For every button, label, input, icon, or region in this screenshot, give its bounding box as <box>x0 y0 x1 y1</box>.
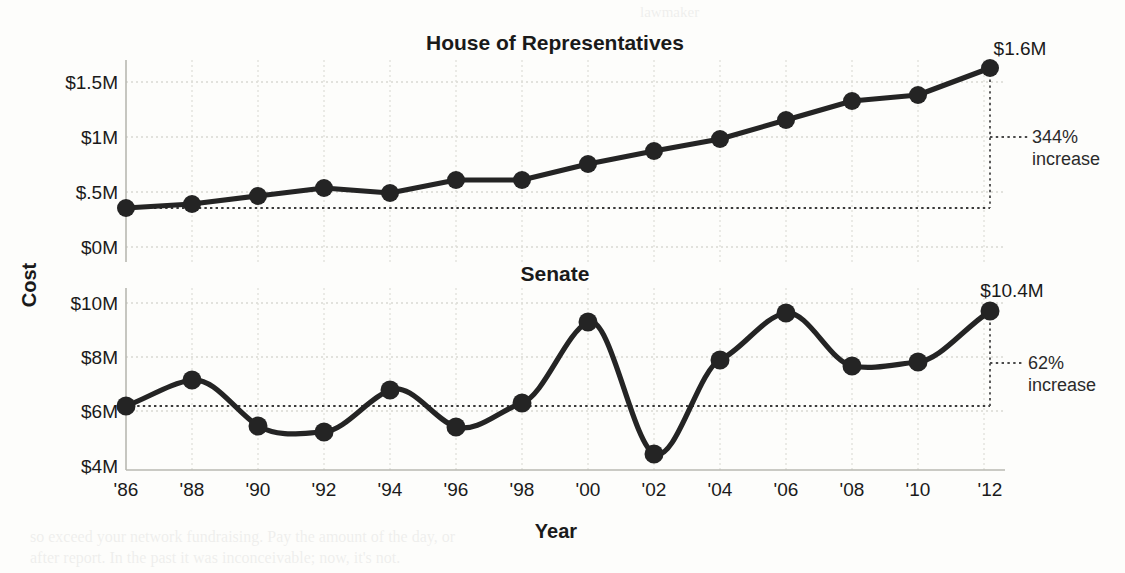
house-point <box>579 155 597 173</box>
house-point <box>843 92 861 110</box>
senate-point <box>777 304 796 323</box>
xtick: '04 <box>708 479 733 500</box>
senate-point <box>579 313 598 332</box>
house-point <box>711 130 729 148</box>
xtick: '88 <box>180 479 205 500</box>
senate-point <box>843 357 862 376</box>
senate-ytick-1: $8M <box>81 347 118 368</box>
senate-ytick-0: $10M <box>70 293 118 314</box>
xtick: '12 <box>978 479 1003 500</box>
xtick: '90 <box>246 479 271 500</box>
xtick: '00 <box>576 479 601 500</box>
senate-point <box>513 394 532 413</box>
house-point <box>447 171 465 189</box>
house-panel-title: House of Representatives <box>426 31 684 54</box>
house-point <box>513 171 531 189</box>
house-point <box>645 142 663 160</box>
chart-svg: $1.5M $1M $.5M $0M House of Representati… <box>0 0 1125 573</box>
xtick: '98 <box>510 479 535 500</box>
house-point <box>381 184 399 202</box>
senate-point <box>117 397 136 416</box>
senate-point <box>909 353 928 372</box>
house-point <box>249 187 267 205</box>
house-ytick-0: $1.5M <box>65 72 118 93</box>
senate-point <box>381 381 400 400</box>
y-axis-title: Cost <box>18 262 40 307</box>
house-ytick-3: $0M <box>81 237 118 258</box>
senate-markers <box>117 302 1000 464</box>
xtick: '02 <box>642 479 667 500</box>
xtick: '96 <box>444 479 469 500</box>
senate-point <box>981 302 1000 321</box>
xtick: '06 <box>774 479 799 500</box>
house-point <box>315 179 333 197</box>
house-point <box>117 199 135 217</box>
xtick: '10 <box>906 479 931 500</box>
senate-point <box>711 351 730 370</box>
senate-endpoint-label: $10.4M <box>980 280 1043 301</box>
senate-point <box>183 371 202 390</box>
x-axis-title: Year <box>535 520 577 542</box>
xtick: '08 <box>840 479 865 500</box>
senate-point <box>249 417 268 436</box>
senate-annotation-pct: 62% <box>1028 353 1064 373</box>
senate-point <box>315 423 334 442</box>
senate-ytick-3: $4M <box>81 456 118 477</box>
house-point <box>909 86 927 104</box>
house-point <box>777 111 795 129</box>
xtick: '92 <box>312 479 337 500</box>
house-ytick-2: $.5M <box>76 182 118 203</box>
senate-ytick-2: $6M <box>81 401 118 422</box>
house-series-line <box>126 68 990 208</box>
house-point <box>183 195 201 213</box>
senate-point <box>447 418 466 437</box>
house-point <box>981 59 999 77</box>
senate-point <box>645 445 664 464</box>
senate-gridlines <box>126 288 1005 470</box>
xtick: '86 <box>114 479 139 500</box>
xtick: '94 <box>378 479 403 500</box>
house-annotation-word: increase <box>1032 149 1100 169</box>
senate-annotation-word: increase <box>1028 375 1096 395</box>
x-tick-labels: '86 '88 '90 '92 '94 '96 '98 '00 '02 '04 … <box>114 479 1003 500</box>
chart-figure: lawmaker so exceed your network fundrais… <box>0 0 1125 573</box>
house-ytick-1: $1M <box>81 127 118 148</box>
senate-panel-title: Senate <box>521 262 590 285</box>
house-endpoint-label: $1.6M <box>994 38 1047 59</box>
house-annotation-pct: 344% <box>1032 127 1078 147</box>
house-gridlines <box>126 60 1005 262</box>
